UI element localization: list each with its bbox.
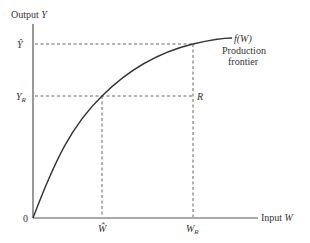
y-hat-label: Ŷ [17, 39, 24, 50]
y-r-label: YR [16, 91, 27, 104]
y-axis-label: Output Y [11, 9, 48, 20]
origin-label: 0 [23, 213, 28, 224]
curve-function-label: f(W) [234, 33, 252, 45]
x-axis-label: Input W [261, 212, 295, 223]
point-r-label: R [196, 91, 203, 102]
curve-name-line2: frontier [228, 56, 259, 67]
w-r-label: WR [186, 223, 199, 236]
production-frontier-diagram: Output Y Input W 0 Ŷ YR Ŵ WR R f(W) Prod… [0, 0, 310, 243]
curve-name-line1: Production [222, 45, 266, 56]
production-frontier-curve [33, 38, 232, 218]
w-hat-label: Ŵ [98, 222, 108, 234]
